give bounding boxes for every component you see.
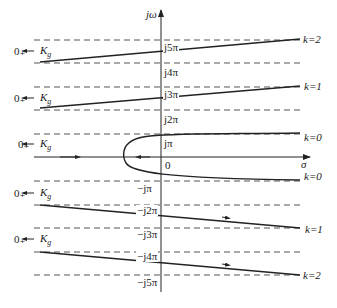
k-label-bottom-1: k=1 (305, 224, 323, 235)
tick-label-neg-jpi: −jπ (136, 183, 153, 194)
tick-label-j4pi: j4π (163, 67, 179, 78)
k-label-top-0: k=0 (304, 132, 322, 143)
gain-label: Kg (40, 187, 51, 201)
tick-label-j5pi: j5π (163, 42, 179, 53)
gain-label: Kg (40, 138, 51, 152)
tick-label-neg-j4pi: −j4π (136, 251, 158, 262)
gain-label: Kg (40, 45, 51, 59)
gain-label: Kg (40, 92, 51, 106)
zero-plus-label: 0₊ (14, 46, 25, 57)
zero-plus-label: 0₊ (14, 93, 25, 104)
k-label-top-2: k=2 (303, 34, 321, 45)
tick-label-j3pi: j3π (163, 89, 179, 100)
tick-label-jpi: jπ (163, 138, 174, 149)
zero-plus-label: 0₊ (14, 234, 25, 245)
sigma-axis-label: σ (301, 159, 306, 170)
gain-label: Kg (40, 233, 51, 247)
zero-plus-label: 0₊ (18, 139, 29, 150)
origin-label: 0 (165, 160, 171, 171)
k-label-bottom-0: k=0 (304, 171, 322, 182)
k-label-top-1: k=1 (304, 81, 322, 92)
tick-label-j2pi: j2π (163, 114, 179, 125)
k-label-bottom-2: k=2 (303, 270, 321, 281)
tick-label-neg-j5pi: −j5π (136, 277, 158, 288)
tick-label-neg-j2pi: −j2π (136, 205, 158, 216)
tick-label-neg-j3pi: −j3π (136, 229, 158, 240)
jw-axis-label: jω (146, 9, 157, 20)
zero-plus-label: 0₊ (14, 188, 25, 199)
